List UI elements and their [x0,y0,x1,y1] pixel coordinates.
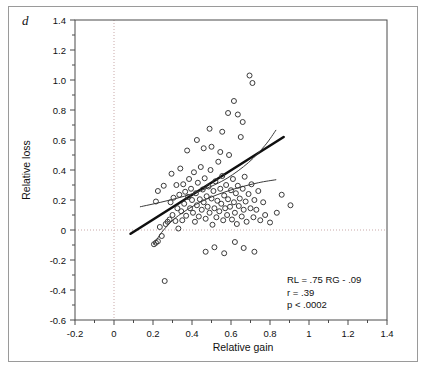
data-point [170,213,175,218]
data-point [178,166,183,171]
data-point [252,198,257,203]
data-point [192,219,197,224]
y-tick-label: 1.0 [53,75,66,86]
data-point [236,204,241,209]
data-point [203,216,208,221]
data-point [250,81,255,86]
data-point [212,206,217,211]
data-point [173,219,178,224]
data-point [247,73,252,78]
y-tick-label: -0.4 [50,285,66,296]
data-point [207,210,212,215]
data-point [194,138,199,143]
data-point [157,225,162,230]
data-point [208,168,213,173]
y-axis-title: Relative loss [20,140,32,200]
data-point [217,209,222,214]
data-point [251,215,256,220]
data-point [222,251,227,256]
data-point [220,129,225,134]
data-point [223,206,228,211]
annotation-group: RL = .75 RG - .09r = .39p < .0002 [287,274,361,310]
data-point [190,210,195,215]
data-point [198,165,203,170]
y-tick-label: 0 [61,225,66,236]
data-point [191,170,196,175]
x-tick-label: 1.2 [341,328,354,339]
x-tick-label: 1.4 [380,328,393,339]
y-tick-label: -0.6 [50,315,66,326]
data-points-group [151,73,293,284]
data-point [199,207,204,212]
data-point [189,186,194,191]
data-point [226,111,231,116]
data-point [268,220,273,225]
y-tick-label: 1.2 [53,45,66,56]
annotation-equation: RL = .75 RG - .09 [287,274,361,285]
data-point [176,226,181,231]
fit-lines-group [131,130,284,244]
data-point [231,200,236,205]
x-tick-label: 0.4 [185,328,198,339]
y-tick-label: 0.6 [53,135,66,146]
x-tick-label: -0.2 [67,328,83,339]
data-point [177,192,182,197]
data-point [233,191,238,196]
data-point [212,245,217,250]
x-tick-labels: -0.200.20.40.60.811.21.4 [67,328,394,339]
data-point [237,196,242,201]
data-point [261,200,266,205]
x-axis-title: Relative gain [213,341,274,353]
data-point [183,189,188,194]
data-point [159,234,164,239]
data-point [169,171,174,176]
data-point [207,126,212,131]
x-tick-label: 1 [306,328,311,339]
data-point [203,249,208,254]
data-point [288,203,293,208]
x-tick-label: 0.2 [146,328,159,339]
data-point [263,213,268,218]
data-point [224,183,229,188]
data-point [190,198,195,203]
data-point [214,215,219,220]
data-point [201,146,206,151]
data-point [241,207,246,212]
data-point [235,112,240,117]
data-point [274,210,279,215]
data-point [185,148,190,153]
data-point [174,183,179,188]
data-point [256,189,261,194]
data-point [209,144,214,149]
y-tick-label: 1.4 [53,15,66,26]
data-point [187,177,192,182]
data-point [162,279,167,284]
data-point [252,249,257,254]
data-point [238,135,243,140]
data-point [161,183,166,188]
data-point [182,201,187,206]
data-point [258,218,263,223]
data-point [155,189,160,194]
data-point [218,186,223,191]
data-point [234,222,239,227]
data-point [241,246,246,251]
data-point [221,218,226,223]
data-point [226,197,231,202]
data-point [204,194,209,199]
y-tick-label: 0.2 [53,195,66,206]
x-tick-label: 0.8 [263,328,276,339]
regression-line [131,137,284,234]
data-point [232,210,237,215]
data-point [211,189,216,194]
x-tick-label: 0 [111,328,116,339]
data-point [195,180,200,185]
data-point [205,204,210,209]
data-point [202,176,207,181]
figure-panel: d -0.200.20.40.60.811.21.4 -0.6-0.4-0.20… [0,0,429,374]
data-point [196,214,201,219]
data-point [248,206,253,211]
y-tick-label: 0.4 [53,165,66,176]
y-tick-labels: -0.6-0.4-0.200.20.40.60.81.01.21.4 [50,15,66,326]
data-point [279,192,284,197]
